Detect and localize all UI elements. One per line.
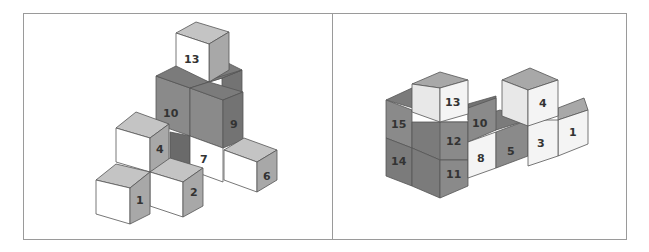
right-cube-view: 15 14 12 11 10 8 5 13 1 3 (0, 0, 649, 252)
cube-label: 8 (477, 152, 485, 165)
cube-label: 11 (446, 168, 461, 181)
cube-label: 10 (472, 117, 488, 130)
cube-3: 3 (528, 120, 558, 166)
cube-4: 4 (502, 68, 558, 126)
cube-label: 15 (391, 118, 406, 131)
cube-label: 13 (445, 96, 460, 109)
cube-1: 1 (558, 98, 588, 156)
cube-label: 5 (507, 145, 515, 158)
cube-13: 13 (412, 72, 468, 122)
cube-label: 14 (391, 155, 407, 168)
cube-label: 12 (446, 135, 461, 148)
cube-label: 4 (539, 97, 547, 110)
cube-label: 1 (569, 126, 577, 139)
cube-label: 3 (537, 137, 545, 150)
